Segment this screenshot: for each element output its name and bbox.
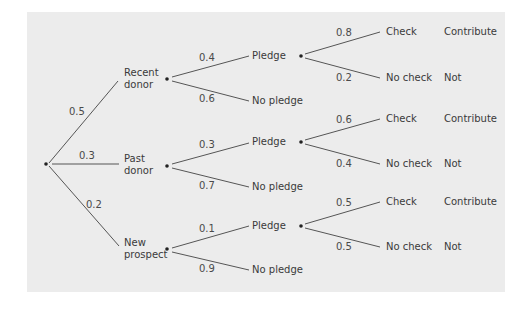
label-check-1: Check: [386, 26, 417, 38]
label-past-donor: Pastdonor: [124, 153, 153, 177]
label-recent-donor: Recentdonor: [124, 67, 159, 91]
prob-nopledge-2: 0.7: [199, 180, 215, 192]
label-nopledge-3: No pledge: [252, 264, 303, 276]
prob-check-2: 0.6: [336, 114, 352, 126]
label-nocheck-3: No check: [386, 241, 432, 253]
label-nopledge-2: No pledge: [252, 181, 303, 193]
label-check-3: Check: [386, 196, 417, 208]
prob-nopledge-3: 0.9: [199, 263, 215, 275]
node-past: [165, 164, 169, 168]
prob-pledge-3: 0.1: [199, 223, 215, 235]
root-node: [44, 162, 48, 166]
prob-nocheck-3: 0.5: [336, 241, 352, 253]
node-pledge-3: [299, 224, 303, 228]
prob-nocheck-1: 0.2: [336, 72, 352, 84]
label-nopledge-1: No pledge: [252, 95, 303, 107]
label-pledge-1: Pledge: [252, 50, 286, 62]
label-check-2: Check: [386, 113, 417, 125]
label-pledge-3: Pledge: [252, 220, 286, 232]
prob-check-1: 0.8: [336, 27, 352, 39]
node-pledge-1: [299, 54, 303, 58]
label-nocheck-2: No check: [386, 158, 432, 170]
prob-recent: 0.5: [69, 106, 85, 118]
prob-nocheck-2: 0.4: [336, 158, 352, 170]
prob-check-3: 0.5: [336, 197, 352, 209]
prob-pledge-2: 0.3: [199, 139, 215, 151]
prob-new: 0.2: [86, 199, 102, 211]
node-pledge-2: [299, 140, 303, 144]
outcome-contribute-3: Contribute: [444, 196, 497, 208]
outcome-contribute-1: Contribute: [444, 26, 497, 38]
outcome-not-2: Not: [444, 158, 462, 170]
prob-nopledge-1: 0.6: [199, 93, 215, 105]
outcome-not-3: Not: [444, 241, 462, 253]
prob-pledge-1: 0.4: [199, 52, 215, 64]
label-nocheck-1: No check: [386, 72, 432, 84]
label-new-prospect: Newprospect: [124, 237, 168, 261]
outcome-contribute-2: Contribute: [444, 113, 497, 125]
prob-past: 0.3: [79, 150, 95, 162]
outcome-not-1: Not: [444, 72, 462, 84]
node-recent: [165, 77, 169, 81]
label-pledge-2: Pledge: [252, 136, 286, 148]
